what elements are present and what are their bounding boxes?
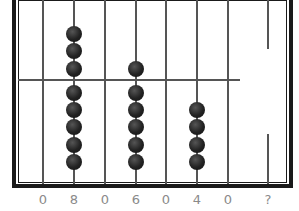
rod-label-2: 8	[64, 192, 84, 207]
rod-label-3: 0	[95, 192, 115, 207]
rod-label-7: 0	[218, 192, 238, 207]
bead	[66, 154, 82, 170]
bead	[128, 61, 144, 77]
bead	[66, 26, 82, 42]
bead	[189, 119, 205, 135]
rod-label-6: 4	[187, 192, 207, 207]
bead	[66, 85, 82, 101]
bead	[128, 137, 144, 153]
bead	[66, 119, 82, 135]
bead	[189, 137, 205, 153]
rod-label-8-unknown: ?	[258, 192, 278, 207]
rod-label-1: 0	[33, 192, 53, 207]
bead	[189, 102, 205, 118]
bead	[66, 137, 82, 153]
rod-1	[42, 0, 44, 184]
abacus-divider-bar	[18, 79, 240, 81]
bead	[128, 102, 144, 118]
bead	[66, 61, 82, 77]
rod-3	[104, 0, 106, 184]
bead	[66, 102, 82, 118]
bead	[128, 154, 144, 170]
rod-5	[165, 0, 167, 184]
rod-label-4: 6	[126, 192, 146, 207]
rod-7	[227, 0, 229, 184]
bead	[66, 43, 82, 59]
rod-8-upper	[267, 0, 269, 49]
rod-label-5: 0	[156, 192, 176, 207]
abacus-frame-inner	[18, 0, 287, 183]
bead	[128, 119, 144, 135]
bead	[189, 154, 205, 170]
bead	[128, 85, 144, 101]
rod-8-lower	[267, 134, 269, 184]
